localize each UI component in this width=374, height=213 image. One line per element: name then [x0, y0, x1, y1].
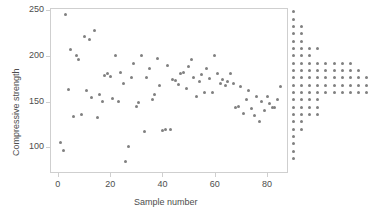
dot-plot-dot — [300, 47, 303, 50]
dot-plot-dot — [292, 106, 295, 109]
dot-plot-dot — [292, 40, 295, 43]
dot-plot-dot — [292, 47, 295, 50]
dot-plot-dot — [341, 84, 344, 87]
dot-plot-dot — [300, 32, 303, 35]
dot-plot-dot — [300, 106, 303, 109]
dot-plot-dot — [357, 91, 360, 94]
dot-plot-dot — [300, 120, 303, 123]
compressive-strength-figure: Compressive strength Sample number 10015… — [0, 0, 374, 213]
dot-plot-dot — [349, 91, 352, 94]
dot-plot-dot — [300, 84, 303, 87]
dot-plot-dot — [308, 113, 311, 116]
dot-plot-dot — [300, 62, 303, 65]
dot-plot-dot — [292, 150, 295, 153]
dot-plot-dot — [349, 69, 352, 72]
dot-plot-dot — [292, 120, 295, 123]
dot-plot-dot — [341, 69, 344, 72]
dot-plot-dot — [333, 76, 336, 79]
dot-plot-dot — [300, 25, 303, 28]
dot-plot-dot — [365, 84, 368, 87]
dot-plot-dot — [300, 113, 303, 116]
dot-plot-dot — [316, 84, 319, 87]
dot-plot-dot — [292, 91, 295, 94]
dot-plot-dot — [300, 54, 303, 57]
dot-plot-dot — [324, 84, 327, 87]
dot-plot-dot — [308, 62, 311, 65]
dot-plot-dot — [292, 76, 295, 79]
dot-plot-dot — [292, 128, 295, 131]
dot-plot-dot — [300, 69, 303, 72]
dot-plot-dot — [333, 62, 336, 65]
dot-plot-dot — [308, 54, 311, 57]
dot-plot-dot — [292, 32, 295, 35]
dot-plot-dot — [341, 62, 344, 65]
dot-plot-dot — [316, 47, 319, 50]
dot-plot-dot — [292, 113, 295, 116]
dot-plot-dot — [324, 62, 327, 65]
dot-plot-dot — [333, 91, 336, 94]
dot-plot-dot — [292, 157, 295, 160]
dot-plot-dot — [324, 76, 327, 79]
dot-plot-dot — [292, 10, 295, 13]
dot-plot-dot — [357, 84, 360, 87]
dot-plot-dot — [349, 76, 352, 79]
dot-plot-dot — [316, 113, 319, 116]
dot-plot-dot — [308, 76, 311, 79]
dot-plot-dot — [292, 54, 295, 57]
dot-plot-dot — [316, 62, 319, 65]
dot-plot-dot — [292, 135, 295, 138]
dot-plot-dot — [300, 128, 303, 131]
dot-plot-dot — [349, 84, 352, 87]
dot-plot-dot — [308, 106, 311, 109]
dot-plot-dot — [300, 98, 303, 101]
dot-plot-dot — [349, 62, 352, 65]
dot-plot-dot — [300, 91, 303, 94]
dot-plot-dot — [292, 142, 295, 145]
dot-plot-dot — [308, 69, 311, 72]
dot-plot-dot — [357, 76, 360, 79]
dot-plot-dot — [324, 69, 327, 72]
dot-plot-dot — [333, 69, 336, 72]
dot-plot-dot — [341, 91, 344, 94]
dot-plot-dot — [292, 84, 295, 87]
dot-plot-dot — [341, 76, 344, 79]
dot-plot-dot — [316, 69, 319, 72]
dot-plot-dot — [357, 69, 360, 72]
dot-plot-dot — [292, 69, 295, 72]
dot-plot-dot — [365, 76, 368, 79]
dot-plot-dot — [292, 25, 295, 28]
dot-plot-dot — [308, 91, 311, 94]
dot-plot-dot — [316, 106, 319, 109]
dot-plot-dot — [308, 84, 311, 87]
dot-plot-dot — [292, 98, 295, 101]
dot-plot-dot — [316, 91, 319, 94]
dot-plot-dot — [365, 91, 368, 94]
dot-plot-dot — [316, 98, 319, 101]
dot-plot-dot — [300, 76, 303, 79]
dot-plot-dot — [316, 76, 319, 79]
dot-plot-dot — [300, 40, 303, 43]
dot-plot-dot — [308, 98, 311, 101]
dot-plot-dot — [333, 84, 336, 87]
dot-plot-dot — [292, 62, 295, 65]
dot-plot-dot — [324, 91, 327, 94]
dot-plot-dot — [308, 47, 311, 50]
dot-plot-dot — [292, 18, 295, 21]
dot-plot-distribution — [0, 0, 374, 213]
